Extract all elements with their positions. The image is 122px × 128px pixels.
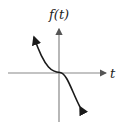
y-axis-label: f(t) — [49, 8, 69, 21]
function-curve — [34, 37, 80, 107]
x-axis-label: t — [110, 67, 115, 80]
